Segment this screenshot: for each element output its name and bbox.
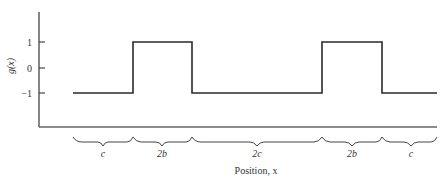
x-axis-label: Position, x bbox=[235, 165, 278, 176]
brace-c-left bbox=[73, 137, 133, 146]
brace-2b-left bbox=[133, 137, 192, 146]
brace-2b-right bbox=[322, 137, 382, 146]
segment-label-c-left: c bbox=[101, 148, 106, 159]
segment-braces bbox=[73, 137, 437, 146]
segment-label-2b-left: 2b bbox=[157, 148, 167, 159]
square-wave-line bbox=[73, 42, 437, 93]
brace-c-right bbox=[382, 137, 437, 146]
segment-label-c-right: c bbox=[409, 148, 414, 159]
y-axis-label: g(x) bbox=[5, 57, 17, 74]
segment-label-2c: 2c bbox=[252, 148, 262, 159]
brace-2c bbox=[192, 137, 322, 146]
square-wave-diagram: 1 0 −1 g(x) c 2b 2c 2b c Position, x bbox=[0, 0, 447, 184]
y-tick-label-0: 0 bbox=[27, 63, 32, 74]
segment-label-2b-right: 2b bbox=[347, 148, 357, 159]
y-tick-label-neg1: −1 bbox=[21, 88, 32, 99]
y-tick-label-1: 1 bbox=[27, 37, 32, 48]
